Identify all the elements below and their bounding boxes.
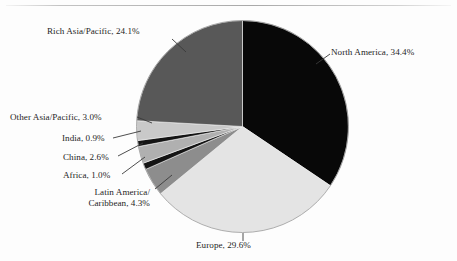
latin-america-line-1: Latin America/ [95, 187, 151, 197]
pie-slice-group [137, 21, 349, 233]
pie-chart-svg [0, 0, 457, 261]
slice-label-europe: Europe, 29.6% [196, 240, 251, 251]
slice-label-rich-asia-pacific: Rich Asia/Pacific, 24.1% [47, 26, 140, 37]
slice-label-india: India, 0.9% [62, 133, 105, 144]
slice-label-north-america: North America, 34.4% [331, 47, 414, 58]
latin-america-line-2: Caribbean, 4.3% [88, 198, 150, 208]
pie-chart-figure: Rich Asia/Pacific, 24.1% North America, … [0, 0, 457, 261]
slice-label-latin-america-caribbean: Latin America/ Caribbean, 4.3% [46, 187, 150, 210]
slice-label-china: China, 2.6% [63, 152, 109, 163]
slice-label-africa: Africa, 1.0% [63, 170, 110, 181]
leader-line-africa [122, 157, 145, 174]
slice-label-other-asia-pacific: Other Asia/Pacific, 3.0% [10, 112, 102, 123]
pie-slice-rich-asia-pacific [137, 21, 243, 127]
